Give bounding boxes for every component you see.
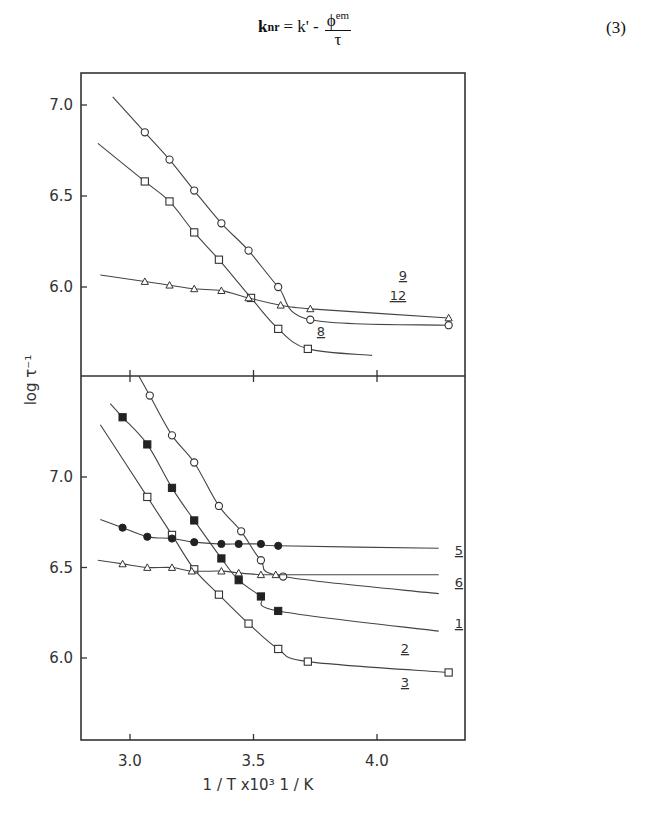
series-8 (98, 143, 372, 355)
y-axis-title: log τ⁻¹ (22, 355, 40, 406)
curve-label-3: 3 (401, 675, 409, 690)
curve-label-9: 9 (399, 268, 407, 283)
x-tick-label: 3.0 (118, 752, 142, 770)
curve-label-12: 12 (390, 288, 407, 303)
y-tick-label: 6.0 (49, 278, 73, 296)
y-tick-label: 6.0 (49, 649, 73, 667)
curve-2 (110, 404, 439, 631)
x-tick-label: 3.5 (242, 752, 266, 770)
y-tick-label: 6.5 (49, 559, 73, 577)
series-5 (100, 520, 438, 550)
panel-upper: 6.06.57.01289 (49, 96, 452, 376)
curve-label-5: 5 (455, 543, 463, 558)
arrhenius-chart: 6.06.57.012896.06.57.03.03.54.0123561 / … (0, 0, 653, 828)
series-6 (98, 560, 439, 577)
x-tick-label: 4.0 (365, 752, 389, 770)
curve-5 (100, 520, 438, 549)
series-3 (100, 425, 452, 676)
y-tick-label: 6.5 (49, 187, 73, 205)
series-1 (135, 369, 439, 594)
panel-lower: 6.06.57.03.03.54.012356 (49, 369, 463, 770)
curve-label-1: 1 (455, 616, 463, 631)
curve-1 (135, 369, 439, 594)
curve-8 (98, 143, 372, 355)
curve-3 (100, 425, 448, 673)
curve-label-8: 8 (317, 324, 325, 339)
y-tick-label: 7.0 (49, 468, 73, 486)
curve-label-2: 2 (401, 641, 409, 656)
series-2 (110, 404, 439, 631)
x-axis-title: 1 / T x10³ 1 / K (203, 776, 315, 794)
plot-frame (81, 73, 465, 740)
curve-label-6: 6 (455, 575, 463, 590)
y-tick-label: 7.0 (49, 96, 73, 114)
